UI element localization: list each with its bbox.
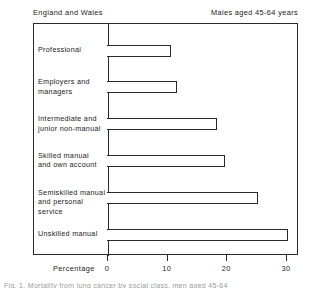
bar-chart-figure: England and Wales Males aged 45-64 years… bbox=[0, 0, 312, 288]
header-population-label: Males aged 45-64 years bbox=[211, 8, 298, 17]
bar bbox=[107, 229, 288, 241]
chart-header: England and Wales Males aged 45-64 years bbox=[33, 5, 298, 19]
x-axis-title: Percentage bbox=[53, 264, 95, 273]
axis-tick bbox=[107, 255, 108, 261]
axis-tick-label: 0 bbox=[105, 264, 110, 273]
x-axis-tick-labels: 0102030 bbox=[107, 264, 298, 276]
category-label-column: ProfessionalEmployers and managersInterm… bbox=[38, 23, 108, 255]
bar bbox=[107, 81, 177, 93]
category-label: Intermediate and junior non-manual bbox=[38, 114, 110, 133]
axis-tick-label: 30 bbox=[282, 264, 291, 273]
category-label: Employers and managers bbox=[38, 77, 110, 96]
x-axis-ticks bbox=[107, 255, 298, 263]
axis-tick bbox=[226, 255, 227, 261]
category-label: Semiskilled manual and personal service bbox=[38, 188, 110, 217]
axis-tick bbox=[286, 255, 287, 261]
header-region-label: England and Wales bbox=[33, 8, 103, 17]
plot-area bbox=[107, 23, 298, 255]
axis-tick-label: 10 bbox=[162, 264, 171, 273]
category-label: Professional bbox=[38, 45, 110, 55]
bar bbox=[107, 45, 171, 57]
category-label: Skilled manual and own account bbox=[38, 151, 110, 170]
axis-tick-label: 20 bbox=[222, 264, 231, 273]
bar bbox=[107, 155, 225, 167]
category-label: Unskilled manual bbox=[38, 229, 110, 239]
figure-caption-partial: Fig. 1. Mortality from lung cancer by so… bbox=[4, 282, 308, 288]
axis-tick bbox=[167, 255, 168, 261]
bar bbox=[107, 192, 258, 204]
bar bbox=[107, 118, 217, 130]
